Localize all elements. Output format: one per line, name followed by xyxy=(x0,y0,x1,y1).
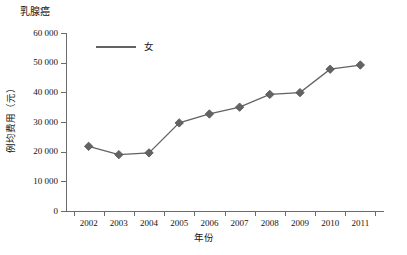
x-axis-tick xyxy=(255,211,256,216)
series-plot xyxy=(0,0,407,255)
legend: 女 xyxy=(96,42,154,52)
x-axis-tick-label: 2004 xyxy=(140,218,158,228)
x-axis-tick-label: 2008 xyxy=(261,218,279,228)
chart-figure: 乳腺癌 010 00020 00030 00040 00050 00060 00… xyxy=(0,0,407,255)
x-axis-tick xyxy=(194,211,195,216)
y-axis-tick xyxy=(61,211,66,212)
x-axis-tick xyxy=(74,211,75,216)
x-axis-tick-label: 2010 xyxy=(321,218,339,228)
legend-line-icon xyxy=(96,46,116,48)
x-axis-tick xyxy=(345,211,346,216)
y-axis-tick xyxy=(61,152,66,153)
x-axis-tick xyxy=(285,211,286,216)
data-point-marker xyxy=(356,61,364,69)
data-point-marker xyxy=(115,150,123,158)
x-axis-tick-label: 2003 xyxy=(110,218,128,228)
legend-label: 女 xyxy=(144,42,154,52)
x-axis-tick xyxy=(104,211,105,216)
data-point-marker xyxy=(205,110,213,118)
x-axis-tick-label: 2009 xyxy=(291,218,309,228)
x-axis-tick-label: 2011 xyxy=(352,218,370,228)
y-axis-tick xyxy=(61,92,66,93)
x-axis-tick xyxy=(315,211,316,216)
x-axis-tick-label: 2007 xyxy=(231,218,249,228)
data-point-marker xyxy=(235,103,243,111)
data-point-marker xyxy=(84,142,92,150)
x-axis-tick xyxy=(225,211,226,216)
x-axis-tick-label: 2002 xyxy=(80,218,98,228)
x-axis-tick xyxy=(134,211,135,216)
legend-line-icon-right xyxy=(116,46,136,48)
series-line xyxy=(89,65,361,155)
x-axis-tick xyxy=(164,211,165,216)
y-axis-tick xyxy=(61,181,66,182)
y-axis-tick xyxy=(61,122,66,123)
data-point-marker xyxy=(266,90,274,98)
y-axis-tick xyxy=(61,63,66,64)
x-axis-tick xyxy=(375,211,376,216)
x-axis-tick-label: 2005 xyxy=(170,218,188,228)
x-axis-tick-label: 2006 xyxy=(200,218,218,228)
y-axis-tick xyxy=(61,33,66,34)
